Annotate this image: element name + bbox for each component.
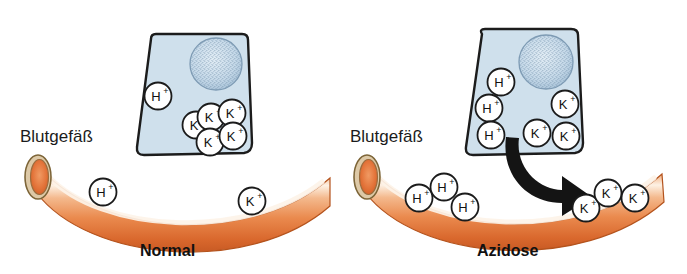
ion-charge-label: +	[424, 188, 429, 198]
ion-species-label: K	[602, 186, 611, 201]
ion-species-label: H	[151, 89, 160, 104]
ion-h-plus: H +	[406, 185, 433, 212]
ion-k-plus: K +	[553, 123, 580, 150]
ion-species-label: H	[96, 185, 105, 200]
ion-h-plus: H +	[452, 194, 479, 221]
panel-azidose: H + H + H + K +	[350, 29, 664, 259]
ion-species-label: H	[412, 191, 421, 206]
ion-charge-label: +	[496, 125, 501, 135]
vessel-label-normal: Blutgefäß	[20, 127, 93, 146]
ion-charge-label: +	[238, 126, 243, 136]
ion-charge-label: +	[506, 72, 511, 82]
panel-caption-normal: Normal	[140, 242, 195, 259]
vessel-label-azidose: Blutgefäß	[350, 127, 423, 146]
ion-species-label: K	[205, 110, 214, 125]
panel-caption-azidose: Azidose	[477, 242, 538, 259]
ion-h-plus: H +	[431, 174, 458, 201]
panel-normal: H + K + K + K +	[20, 34, 330, 259]
ion-species-label: H	[437, 180, 446, 195]
ion-species-label: K	[227, 129, 236, 144]
ion-species-label: H	[494, 75, 503, 90]
vessel-ions-normal: H + K +	[90, 179, 266, 215]
ion-h-plus: H +	[488, 69, 515, 96]
ion-charge-label: +	[570, 94, 575, 104]
ion-k-plus: K +	[239, 188, 266, 215]
ion-h-plus: H +	[145, 83, 172, 110]
ion-charge-label: +	[542, 123, 547, 133]
ion-species-label: K	[629, 191, 638, 206]
ion-k-plus: K +	[595, 180, 622, 207]
vessel-lumen-normal	[31, 160, 49, 195]
ion-h-plus: H +	[478, 122, 505, 149]
ion-charge-label: +	[449, 177, 454, 187]
ion-species-label: H	[482, 101, 491, 116]
ion-charge-label: +	[571, 126, 576, 136]
ion-k-plus: K +	[622, 185, 649, 212]
ion-charge-label: +	[108, 182, 113, 192]
ion-charge-label: +	[470, 197, 475, 207]
vessel-lumen-azidose	[360, 160, 378, 195]
diagram-canvas: H + K + K + K +	[0, 0, 687, 274]
ion-species-label: H	[484, 128, 493, 143]
ion-charge-label: +	[163, 86, 168, 96]
ion-charge-label: +	[237, 103, 242, 113]
ion-species-label: K	[560, 129, 569, 144]
ion-charge-label: +	[257, 191, 262, 201]
ion-species-label: K	[204, 135, 213, 150]
blood-vessel-normal	[25, 155, 330, 252]
ion-species-label: K	[531, 126, 540, 141]
ion-species-label: K	[559, 97, 568, 112]
ion-charge-label: +	[613, 183, 618, 193]
ion-h-plus: H +	[476, 95, 503, 122]
ion-k-plus: K +	[524, 120, 551, 147]
ion-k-plus: K +	[552, 91, 579, 118]
ion-species-label: K	[226, 106, 235, 121]
ion-species-label: K	[580, 201, 589, 216]
ion-charge-label: +	[494, 98, 499, 108]
ion-h-plus: H +	[90, 179, 117, 206]
ion-species-label: H	[458, 200, 467, 215]
figure-root: H + K + K + K +	[0, 0, 687, 274]
ion-species-label: K	[246, 194, 255, 209]
ion-charge-label: +	[640, 188, 645, 198]
ion-k-plus: K +	[220, 123, 247, 150]
